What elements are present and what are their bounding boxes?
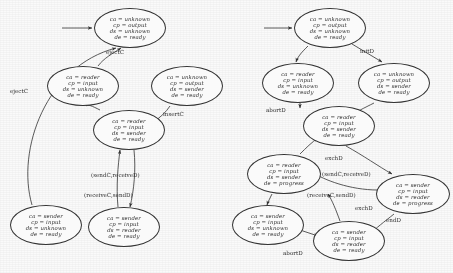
state-ca-unknown-cp-output-ds-sender-de-ready[interactable]: ca = unknowncp = outputds = senderde = r… xyxy=(358,63,430,103)
state-var-line-4: de = ready xyxy=(378,89,409,95)
edge-label-ejectc-upper: ejectC xyxy=(106,49,124,55)
edge-label-sendc-received: (sendC,receiveD) xyxy=(91,172,140,178)
edge-label-exchd-upper: exchD xyxy=(325,155,343,161)
state-var-line-4: de = ready xyxy=(323,132,354,138)
state-ca-unknown-cp-output-ds-unknown-de-ready[interactable]: ca = unknowncp = outputds = unknownde = … xyxy=(94,8,166,48)
state-var-line-4: de = ready xyxy=(314,34,345,40)
edge-R1-to-R2 xyxy=(296,46,308,62)
edge-label-abortd-lower: abortD xyxy=(283,250,303,256)
state-ca-unknown-cp-output-ds-unknown-de-ready[interactable]: ca = unknowncp = outputds = unknownde = … xyxy=(294,8,366,48)
state-ca-sender-cp-input-ds-unknown-de-ready[interactable]: ca = sendercp = inputds = unknownde = re… xyxy=(232,205,304,245)
state-var-line-4: de = ready xyxy=(333,247,364,253)
state-ca-sender-cp-input-ds-reader-de-ready[interactable]: ca = sendercp = inputds = readerde = rea… xyxy=(88,207,160,247)
state-ca-reader-cp-input-ds-sender-de-ready[interactable]: ca = readercp = inputds = senderde = rea… xyxy=(93,110,165,150)
state-ca-reader-cp-input-ds-unknown-de-ready[interactable]: ca = readercp = inputds = unknownde = re… xyxy=(262,63,334,103)
state-var-line-4: de = ready xyxy=(113,136,144,142)
state-ca-reader-cp-input-ds-sender-de-ready[interactable]: ca = readercp = inputds = senderde = rea… xyxy=(303,106,375,146)
state-var-line-4: de = ready xyxy=(108,233,139,239)
edge-label-receivec-sendd: (receiveC,sendD) xyxy=(307,192,356,198)
state-var-line-4: de = ready xyxy=(282,89,313,95)
state-ca-reader-cp-input-ds-sender-de-progress[interactable]: ca = readercp = inputds = senderde = pro… xyxy=(247,154,321,194)
edge-label-receivec-sendd: (receiveC,sendD) xyxy=(84,192,133,198)
state-var-line-4: de = ready xyxy=(67,92,98,98)
state-ca-sender-cp-input-ds-unknown-de-ready[interactable]: ca = sendercp = inputds = unknownde = re… xyxy=(10,205,82,245)
state-ca-reader-cp-input-ds-unknown-de-ready[interactable]: ca = readercp = inputds = unknownde = re… xyxy=(47,66,119,106)
state-var-line-4: de = progress xyxy=(393,200,433,206)
edge-label-initd: initD xyxy=(360,48,374,54)
state-var-line-4: de = ready xyxy=(30,231,61,237)
edge-label-sendc-received: (sendC,receiveD) xyxy=(322,171,371,177)
edge-label-insertc: insertC xyxy=(163,111,184,117)
edge-L6-to-L4-sendc-received xyxy=(117,150,120,207)
edge-R8-to-R5-exchd xyxy=(328,194,340,221)
edge-R5-to-R7 xyxy=(267,194,272,205)
edge-R4-to-R6-sendc-received xyxy=(346,146,392,174)
edge-label-abortd-upper: abortD xyxy=(266,107,286,113)
edge-label-ejectc-lower: ejectC xyxy=(10,88,28,94)
state-var-line-4: de = ready xyxy=(252,231,283,237)
state-ca-unknown-cp-output-ds-sender-de-ready[interactable]: ca = unknowncp = outputds = senderde = r… xyxy=(151,66,223,106)
edge-label-endd: endD xyxy=(386,217,401,223)
state-ca-sender-cp-input-ds-reader-de-ready[interactable]: ca = sendercp = inputds = readerde = rea… xyxy=(313,221,385,261)
edge-L4-to-L6-receivec-sendd xyxy=(130,150,135,207)
edge-label-exchd-lower: exchD xyxy=(355,205,373,211)
state-var-line-4: de = ready xyxy=(171,92,202,98)
diagram-canvas: ca = unknowncp = outputds = unknownde = … xyxy=(0,0,453,273)
state-ca-sender-cp-input-ds-reader-de-progress[interactable]: ca = sendercp = inputds = readerde = pro… xyxy=(376,174,450,214)
state-var-line-4: de = ready xyxy=(114,34,145,40)
state-var-line-4: de = progress xyxy=(264,180,304,186)
edge-L4-to-L2 xyxy=(86,105,100,110)
